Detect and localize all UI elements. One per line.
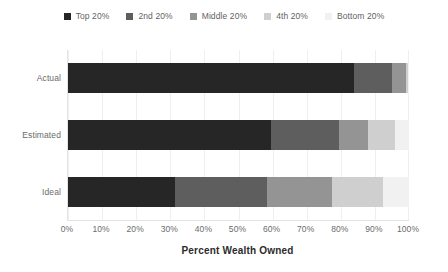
bar-segment[interactable] (383, 177, 409, 207)
x-axis-tick-label: 60% (263, 224, 280, 234)
x-axis-tick-label: 70% (297, 224, 314, 234)
plot-area (67, 50, 409, 221)
bar-segment[interactable] (68, 177, 175, 207)
legend-item-label: Top 20% (76, 11, 110, 21)
bar-segment[interactable] (368, 120, 395, 150)
bar-segment[interactable] (175, 177, 267, 207)
legend-swatch-icon (126, 13, 133, 20)
bar-segment[interactable] (267, 177, 332, 207)
x-axis-tick-label: 40% (195, 224, 212, 234)
x-axis-tick-label: 80% (331, 224, 348, 234)
bar-segment[interactable] (68, 120, 271, 150)
bar-segment[interactable] (68, 63, 354, 93)
legend-item[interactable]: 2nd 20% (126, 11, 172, 21)
legend-item[interactable]: Top 20% (64, 11, 110, 21)
y-axis-tick-label: Actual (0, 73, 61, 83)
legend-swatch-icon (190, 13, 197, 20)
legend-item-label: 2nd 20% (138, 11, 172, 21)
legend-item-label: 4th 20% (276, 11, 308, 21)
bar-segment[interactable] (392, 63, 406, 93)
legend-swatch-icon (325, 13, 332, 20)
x-axis-tick-label: 100% (397, 224, 419, 234)
legend-item-label: Bottom 20% (337, 11, 384, 21)
y-axis-tick-label: Estimated (0, 130, 61, 140)
bar-segment[interactable] (339, 120, 368, 150)
x-axis-title: Percent Wealth Owned (67, 245, 408, 256)
bar-segment[interactable] (354, 63, 392, 93)
legend-item[interactable]: 4th 20% (264, 11, 308, 21)
chart-legend: Top 20%2nd 20%Middle 20%4th 20%Bottom 20… (0, 11, 448, 21)
bar-segment[interactable] (332, 177, 383, 207)
x-axis-tick-label: 90% (365, 224, 382, 234)
y-axis: ActualEstimatedIdeal (0, 50, 61, 220)
bar-segment[interactable] (271, 120, 339, 150)
legend-swatch-icon (264, 13, 271, 20)
x-axis-tick-label: 30% (161, 224, 178, 234)
bar-segment[interactable] (408, 63, 409, 93)
legend-item[interactable]: Bottom 20% (325, 11, 384, 21)
bar-row (68, 63, 409, 93)
legend-item[interactable]: Middle 20% (190, 11, 247, 21)
x-axis: 0%10%20%30%40%50%60%70%80%90%100% (67, 224, 408, 238)
bar-row (68, 177, 409, 207)
x-axis-tick-label: 50% (229, 224, 246, 234)
x-axis-tick-label: 0% (61, 224, 74, 234)
legend-swatch-icon (64, 13, 71, 20)
bar-series-group (68, 50, 409, 220)
x-axis-tick-label: 20% (127, 224, 144, 234)
x-axis-tick-label: 10% (92, 224, 109, 234)
bar-row (68, 120, 409, 150)
legend-item-label: Middle 20% (202, 11, 247, 21)
bar-segment[interactable] (395, 120, 409, 150)
y-axis-tick-label: Ideal (0, 187, 61, 197)
